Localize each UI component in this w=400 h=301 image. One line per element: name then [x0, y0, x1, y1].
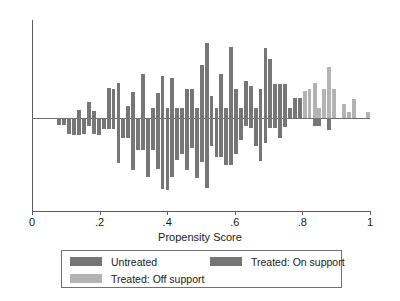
histogram-bar [195, 118, 199, 178]
histogram-bar [77, 110, 81, 118]
histogram-bar [175, 118, 179, 160]
histogram-bar [161, 76, 165, 118]
histogram-bar [239, 118, 243, 140]
histogram-bar [170, 78, 174, 118]
histogram-bar [180, 108, 184, 118]
histogram-bar [229, 118, 233, 165]
histogram-bar [224, 108, 228, 118]
histogram-bar [234, 89, 238, 118]
histogram-bar [303, 91, 307, 118]
histogram-bar [200, 65, 204, 118]
propensity-score-histogram-figure: 0.2.4.6.81 Propensity Score Untreated Tr… [0, 0, 400, 301]
histogram-bar [200, 118, 204, 162]
histogram-bar [273, 118, 277, 128]
histogram-bar [126, 106, 130, 118]
histogram-bar [136, 118, 140, 150]
histogram-bar [112, 89, 116, 118]
x-axis-tick-label: .2 [95, 215, 104, 229]
histogram-bar [151, 108, 155, 118]
legend-swatch-untreated [70, 257, 102, 266]
histogram-bar [107, 88, 111, 118]
x-axis-tick-labels: 0.2.4.6.81 [32, 215, 370, 231]
histogram-bar [102, 118, 106, 129]
histogram-bar [107, 118, 111, 129]
histogram-bar [141, 74, 145, 118]
histogram-bar [190, 118, 194, 148]
histogram-bar [87, 118, 91, 126]
histogram-bar [219, 118, 223, 157]
histogram-bar [259, 118, 263, 161]
legend-label-treated-off-support: Treated: Off support [111, 273, 204, 285]
histogram-bar [67, 118, 71, 134]
histogram-bar [239, 108, 243, 118]
histogram-bar [82, 118, 86, 134]
legend-label-untreated: Untreated [111, 256, 157, 268]
legend-swatch-treated-off-support [70, 274, 102, 283]
histogram-bar [185, 89, 189, 118]
histogram-bar [87, 102, 91, 118]
histogram-bar [249, 118, 253, 128]
histogram-bar [229, 47, 233, 118]
bars-layer [32, 20, 370, 211]
histogram-bar [342, 104, 346, 118]
histogram-bar [283, 84, 287, 118]
histogram-bar [112, 118, 116, 129]
histogram-bar [264, 48, 268, 118]
histogram-bar [327, 67, 331, 118]
histogram-bar [131, 92, 135, 118]
histogram-bar [288, 108, 292, 118]
legend-row-2: Treated: Off support [62, 270, 343, 287]
histogram-bar [131, 118, 135, 170]
histogram-bar [185, 118, 189, 170]
histogram-bar [195, 108, 199, 118]
x-axis-tick-label: .8 [298, 215, 307, 229]
legend-label-treated-on-support: Treated: On support [251, 256, 345, 268]
histogram-bar [215, 118, 219, 157]
histogram-bar [244, 118, 248, 126]
histogram-bar [273, 84, 277, 118]
histogram-bar [210, 96, 214, 118]
legend-swatch-treated-on-support [210, 257, 242, 266]
histogram-bar [92, 118, 96, 134]
histogram-bar [293, 98, 297, 118]
x-axis-tick-label: 0 [29, 215, 35, 229]
histogram-bar [121, 118, 125, 138]
x-axis-title: Propensity Score [0, 230, 400, 244]
histogram-bar [298, 98, 302, 118]
histogram-bar [366, 112, 370, 118]
histogram-bar [141, 118, 145, 150]
histogram-bar [166, 118, 170, 190]
histogram-bar [180, 118, 184, 154]
histogram-bar [244, 81, 248, 118]
legend-entry-untreated: Untreated [70, 253, 157, 270]
histogram-bar [283, 118, 287, 127]
histogram-bar [254, 108, 258, 118]
histogram-bar [156, 93, 160, 118]
plot-area [32, 20, 370, 211]
histogram-bar [170, 118, 174, 177]
histogram-bar [317, 108, 321, 118]
histogram-bar [92, 111, 96, 118]
x-axis-tick-label: .4 [163, 215, 172, 229]
legend: Untreated Treated: On support Treated: O… [61, 250, 342, 288]
histogram-bar [175, 108, 179, 118]
histogram-bar [146, 118, 150, 177]
histogram-bar [190, 89, 194, 118]
histogram-bar [308, 89, 312, 118]
histogram-bar [126, 118, 130, 138]
histogram-bar [317, 118, 321, 126]
histogram-bar [352, 99, 356, 118]
histogram-bar [268, 118, 272, 128]
histogram-bar [313, 118, 317, 126]
x-axis-tick-label: .6 [230, 215, 239, 229]
histogram-bar [332, 89, 336, 118]
histogram-bar [254, 118, 258, 146]
histogram-bar [234, 118, 238, 154]
histogram-bar [205, 118, 209, 188]
legend-entry-treated-on-support: Treated: On support [210, 253, 345, 270]
histogram-bar [97, 118, 101, 135]
histogram-bar [219, 74, 223, 118]
histogram-bar [322, 89, 326, 118]
histogram-bar [57, 118, 61, 125]
legend-row-1: Untreated Treated: On support [62, 253, 343, 270]
